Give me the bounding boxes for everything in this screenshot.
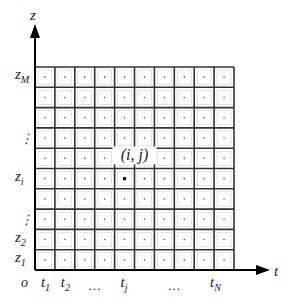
cell-center-dot	[164, 198, 166, 200]
cell-center-dot	[144, 239, 146, 241]
cell-center-dot	[223, 137, 225, 139]
cell-center-dot	[104, 239, 106, 241]
cell-center-dot	[144, 259, 146, 261]
cell-center-dot	[203, 97, 205, 99]
z-ellipsis: ⋮	[20, 212, 33, 227]
cell-center-dot	[203, 158, 205, 160]
cell-center-dot	[104, 218, 106, 220]
cell-center-dot	[183, 158, 185, 160]
cell-center-dot	[203, 259, 205, 261]
cell-center-dot	[104, 97, 106, 99]
cell-center-dot	[203, 76, 205, 78]
cell-center-dot	[124, 239, 126, 241]
t-axis-label: t	[274, 263, 279, 279]
cell-center-dot	[64, 198, 66, 200]
cell-center-dot	[164, 259, 166, 261]
cell-center-dot	[183, 239, 185, 241]
cell-center-dot	[164, 76, 166, 78]
cell-center-dot	[84, 117, 86, 119]
origin-label: o	[21, 275, 28, 290]
cell-center-dot	[84, 76, 86, 78]
cell-center-dot	[104, 117, 106, 119]
cell-center-dot	[64, 76, 66, 78]
cell-center-dot	[144, 198, 146, 200]
cell-center-dot	[164, 117, 166, 119]
z-tick-label-1: z1	[14, 249, 26, 268]
cell-center-dot	[84, 198, 86, 200]
cell-center-dot	[183, 218, 185, 220]
cell-center-dot	[203, 198, 205, 200]
cell-center-dot	[144, 76, 146, 78]
cell-center-dot	[124, 218, 126, 220]
cell-center-dot	[203, 239, 205, 241]
cell-center-dot	[144, 97, 146, 99]
cell-center-dot	[203, 178, 205, 180]
t-ellipsis: …	[169, 278, 181, 293]
cell-center-dot	[124, 137, 126, 139]
cell-center-dot	[44, 218, 46, 220]
cell-center-dot	[223, 117, 225, 119]
cell-center-dot	[144, 117, 146, 119]
cell-center-dot	[84, 178, 86, 180]
cell-center-dot	[44, 239, 46, 241]
cell-center-dot	[44, 117, 46, 119]
cell-center-dot	[164, 218, 166, 220]
cell-center-dot	[164, 158, 166, 160]
cell-center-dot	[44, 178, 46, 180]
cell-center-dot	[44, 137, 46, 139]
z-axis-label: z	[29, 7, 36, 23]
cell-center-dot	[144, 218, 146, 220]
cell-center-dot	[104, 178, 106, 180]
cell-center-dot	[223, 239, 225, 241]
cell-center-dot	[124, 198, 126, 200]
cell-center-dot	[203, 117, 205, 119]
z-tick-label-i: zi	[14, 168, 24, 187]
cell-center-dot	[144, 178, 146, 180]
cell-center-dot	[84, 239, 86, 241]
cell-center-dot	[64, 97, 66, 99]
cell-center-dot	[84, 218, 86, 220]
cell-center-dot	[104, 198, 106, 200]
cell-center-dot	[64, 137, 66, 139]
t-tick-label-1: t1	[41, 274, 50, 293]
cell-center-dot	[124, 97, 126, 99]
highlight-point	[123, 177, 127, 181]
cell-center-dot	[164, 239, 166, 241]
cell-center-dot	[84, 97, 86, 99]
cell-center-dot	[104, 76, 106, 78]
z-tick-label-2: z2	[14, 229, 26, 248]
cell-center-dot	[183, 259, 185, 261]
z-tick-label-M: zM	[14, 66, 30, 85]
cell-center-dot	[183, 198, 185, 200]
cell-center-dot	[223, 97, 225, 99]
cell-center-dot	[64, 259, 66, 261]
cell-center-dot	[44, 158, 46, 160]
cell-center-dot	[124, 117, 126, 119]
cell-center-dot	[64, 239, 66, 241]
cell-center-dot	[44, 259, 46, 261]
cell-center-dot	[183, 117, 185, 119]
cell-center-dot	[183, 76, 185, 78]
cell-center-dot	[84, 259, 86, 261]
cell-center-dot	[223, 158, 225, 160]
cell-center-dot	[124, 259, 126, 261]
cell-center-dot	[64, 178, 66, 180]
cell-center-dot	[223, 198, 225, 200]
cell-center-dot	[124, 76, 126, 78]
cell-center-dot	[44, 198, 46, 200]
cell-center-dot	[164, 137, 166, 139]
cell-center-dot	[84, 158, 86, 160]
cell-center-dot	[203, 218, 205, 220]
cell-center-dot	[64, 218, 66, 220]
cell-center-dot	[183, 97, 185, 99]
cell-center-dot	[164, 97, 166, 99]
cell-center-dot	[64, 158, 66, 160]
cell-center-dot	[203, 137, 205, 139]
z-ellipsis: ⋮	[20, 131, 33, 146]
grid-diagram: ztozM⋮zi⋮z2z1t1t2…tj…tN(i, j)	[0, 0, 290, 307]
t-axis-arrow-icon	[256, 265, 270, 275]
cell-center-dot	[104, 137, 106, 139]
cell-center-dot	[44, 76, 46, 78]
t-ellipsis: …	[89, 278, 101, 293]
cell-center-dot	[64, 117, 66, 119]
